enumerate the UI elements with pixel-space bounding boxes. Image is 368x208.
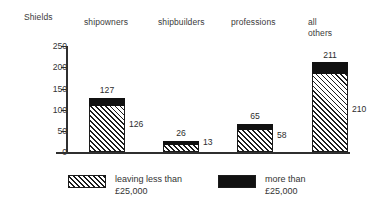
- y-tick-200: 200: [30, 62, 67, 72]
- bar-shipowners[interactable]: [89, 98, 125, 152]
- y-tick-label-0: 0: [41, 147, 67, 157]
- legend-item-more-than[interactable]: more than £25,000: [218, 174, 306, 197]
- bar-top-label-shipowners: 127: [89, 85, 125, 95]
- legend-swatch-hatched-icon: [68, 175, 106, 188]
- chart-title: Shields: [24, 12, 53, 23]
- y-tick-label-250: 250: [41, 41, 67, 51]
- y-tick-label-200: 200: [41, 62, 67, 72]
- category-label-shipowners: shipowners: [84, 17, 128, 28]
- bar-chart-figure: Shields shipowners shipbuilders professi…: [0, 0, 368, 208]
- y-tick-label-150: 150: [41, 84, 67, 94]
- x-axis-baseline: [56, 152, 350, 154]
- bar-top-label-shipbuilders: 26: [163, 128, 199, 138]
- bar-top-label-professions: 65: [237, 111, 273, 121]
- y-tick-150: 150: [30, 84, 67, 94]
- bar-cap-all-others: [312, 62, 349, 74]
- legend-swatch-solid-icon: [218, 175, 256, 188]
- bar-all-others[interactable]: [312, 63, 348, 152]
- category-label-all-others: all others: [308, 17, 332, 38]
- bar-side-label-shipbuilders: 13: [203, 137, 213, 147]
- legend-label-leaving-less-than: leaving less than £25,000: [115, 174, 182, 197]
- y-tick-250: 250: [30, 41, 67, 51]
- bar-shipbuilders[interactable]: [163, 141, 199, 152]
- y-tick-0: 0: [30, 147, 67, 157]
- category-label-professions: professions: [231, 17, 276, 28]
- legend-label-more-than: more than £25,000: [265, 174, 306, 197]
- bar-side-label-shipowners: 126: [129, 119, 143, 129]
- bar-side-label-all-others: 210: [352, 104, 366, 114]
- bar-professions[interactable]: [237, 124, 273, 152]
- bar-cap-shipowners: [89, 98, 126, 107]
- y-tick-label-100: 100: [41, 105, 67, 115]
- category-label-shipbuilders: shipbuilders: [158, 17, 205, 28]
- bar-side-label-professions: 58: [277, 130, 287, 140]
- bar-cap-shipbuilders: [163, 141, 200, 145]
- y-tick-50: 50: [30, 126, 67, 136]
- legend-item-leaving-less-than[interactable]: leaving less than £25,000: [68, 174, 182, 197]
- bar-top-label-all-others: 211: [312, 50, 348, 60]
- chart-legend: leaving less than £25,000 more than £25,…: [0, 170, 368, 208]
- y-tick-label-50: 50: [41, 126, 67, 136]
- bar-cap-professions: [237, 124, 274, 130]
- y-tick-100: 100: [30, 105, 67, 115]
